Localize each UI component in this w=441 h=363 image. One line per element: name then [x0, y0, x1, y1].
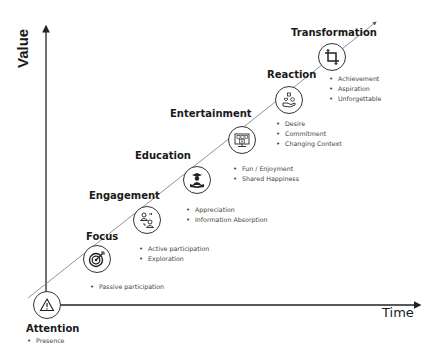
- bullet-item: Aspiration: [329, 84, 381, 94]
- bullet-item: Shared Happiness: [233, 174, 299, 184]
- bullet-item: Passive participation: [90, 282, 164, 292]
- bullet-item: Commitment: [276, 129, 342, 139]
- bullet-item: Desire: [276, 119, 342, 129]
- stage-bullets-transformation: Achievement Aspiration Unforgettable: [329, 74, 381, 104]
- stage-bullets-focus: Passive participation: [90, 282, 164, 292]
- stage-node-entertainment: [228, 126, 256, 154]
- people-exchange-icon: [138, 211, 156, 229]
- bullet-item: Appreciation: [186, 205, 268, 215]
- stage-bullets-reaction: Desire Commitment Changing Context: [276, 119, 342, 149]
- bullet-item: Presence: [27, 336, 65, 346]
- media-screen-icon: [233, 131, 251, 149]
- stage-title-education: Education: [135, 150, 191, 161]
- bullet-item: Active participation: [139, 244, 209, 254]
- graduate-reading-icon: [188, 171, 206, 189]
- stage-node-transformation: [318, 43, 346, 71]
- stage-bullets-attention: Presence: [27, 336, 65, 346]
- bullet-item: Changing Context: [276, 139, 342, 149]
- bullet-item: Fun / Enjoyment: [233, 164, 299, 174]
- stage-bullets-engagement: Active participation Exploration: [139, 244, 209, 264]
- stage-node-focus: [83, 245, 111, 273]
- x-axis-label: Time: [382, 305, 414, 320]
- hand-giving-icon: [280, 91, 298, 109]
- stage-title-reaction: Reaction: [267, 69, 316, 80]
- target-icon: [88, 250, 106, 268]
- stage-node-reaction: [275, 86, 303, 114]
- stage-title-transformation: Transformation: [291, 27, 377, 38]
- bullet-item: Unforgettable: [329, 94, 381, 104]
- bullet-item: Exploration: [139, 254, 209, 264]
- y-axis-label: Value: [14, 29, 31, 68]
- stage-node-education: [183, 166, 211, 194]
- stage-bullets-education: Appreciation Information Absorption: [186, 205, 268, 225]
- bullet-item: Achievement: [329, 74, 381, 84]
- stage-node-attention: [33, 291, 61, 319]
- stage-title-engagement: Engagement: [89, 190, 160, 201]
- stage-title-entertainment: Entertainment: [170, 108, 252, 119]
- stage-bullets-entertainment: Fun / Enjoyment Shared Happiness: [233, 164, 299, 184]
- crop-icon: [323, 48, 341, 66]
- stage-title-focus: Focus: [86, 231, 118, 242]
- stage-title-attention: Attention: [26, 323, 79, 334]
- stage-node-engagement: [133, 206, 161, 234]
- bullet-item: Information Absorption: [186, 215, 268, 225]
- diagram-lines: [0, 0, 441, 363]
- warning-triangle-icon: [39, 297, 55, 313]
